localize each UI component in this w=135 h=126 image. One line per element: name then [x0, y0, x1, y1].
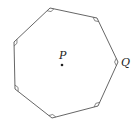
center-label: P	[58, 49, 67, 62]
vertex-q-label: Q	[121, 56, 130, 69]
heptagon-outline	[14, 8, 118, 118]
heptagon-diagram: P Q	[0, 0, 135, 126]
angle-marker	[115, 58, 117, 65]
center-point-dot	[61, 64, 64, 67]
